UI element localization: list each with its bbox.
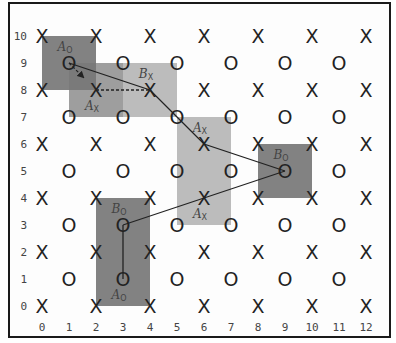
x-marker: X (89, 25, 102, 47)
y-tick-label: 2 (20, 246, 27, 259)
x-marker: X (197, 79, 210, 101)
x-marker: X (251, 295, 264, 317)
x-marker: X (35, 25, 48, 47)
x-marker: X (251, 241, 264, 263)
o-marker: O (116, 52, 131, 74)
x-tick-label: 5 (174, 321, 181, 334)
o-marker: O (278, 214, 293, 236)
o-marker: O (332, 106, 347, 128)
region-label-subscript: O (120, 208, 126, 217)
region-label-subscript: X (202, 213, 208, 222)
x-marker: X (89, 133, 102, 155)
x-marker: X (143, 187, 156, 209)
y-axis-ticks: 012345678910 (14, 30, 28, 313)
x-tick-label: 10 (305, 321, 318, 334)
x-tick-label: 9 (282, 321, 289, 334)
x-marker: X (89, 295, 102, 317)
x-tick-label: 4 (147, 321, 154, 334)
x-marker: X (251, 187, 264, 209)
o-marker: O (170, 214, 185, 236)
x-tick-label: 3 (120, 321, 127, 334)
x-marker: X (359, 79, 372, 101)
x-marker: X (305, 187, 318, 209)
x-marker: X (359, 241, 372, 263)
o-marker: O (224, 214, 239, 236)
o-marker: O (278, 268, 293, 290)
x-tick-label: 1 (66, 321, 73, 334)
o-marker: O (170, 52, 185, 74)
y-tick-label: 0 (20, 300, 27, 313)
x-marker: X (359, 295, 372, 317)
o-marker: O (116, 106, 131, 128)
x-marker: X (197, 241, 210, 263)
x-marker: X (251, 79, 264, 101)
region-label-subscript: O (120, 294, 126, 303)
x-marker: X (359, 187, 372, 209)
x-marker: X (305, 79, 318, 101)
region-label-subscript: X (94, 105, 100, 114)
o-marker: O (332, 214, 347, 236)
lattice-diagram: XXXXXXXOOOOOOXXXXXXXOOOOOOXXXXXXXOOOOOOX… (0, 0, 396, 343)
x-marker: X (143, 133, 156, 155)
x-marker: X (89, 187, 102, 209)
x-tick-label: 0 (39, 321, 46, 334)
o-marker: O (170, 160, 185, 182)
x-marker: X (35, 133, 48, 155)
x-marker: X (143, 241, 156, 263)
y-tick-label: 4 (20, 192, 27, 205)
x-tick-label: 8 (255, 321, 262, 334)
x-tick-label: 2 (93, 321, 100, 334)
o-marker: O (224, 52, 239, 74)
o-marker: O (116, 160, 131, 182)
o-marker: O (224, 106, 239, 128)
region-label-subscript: X (202, 127, 208, 136)
x-marker: X (197, 25, 210, 47)
x-marker: X (35, 241, 48, 263)
o-marker: O (224, 160, 239, 182)
x-marker: X (251, 25, 264, 47)
o-marker: O (62, 268, 77, 290)
x-marker: X (35, 187, 48, 209)
x-marker: X (197, 295, 210, 317)
o-marker: O (332, 160, 347, 182)
x-marker: X (305, 241, 318, 263)
y-tick-label: 9 (20, 57, 27, 70)
y-tick-label: 6 (20, 138, 27, 151)
x-tick-label: 7 (228, 321, 235, 334)
x-axis-ticks: 0123456789101112 (39, 321, 373, 334)
x-marker: X (35, 79, 48, 101)
x-tick-label: 12 (359, 321, 372, 334)
y-tick-label: 3 (20, 219, 27, 232)
y-tick-label: 10 (14, 30, 27, 43)
o-marker: O (62, 106, 77, 128)
x-marker: X (359, 133, 372, 155)
o-marker: O (62, 214, 77, 236)
y-tick-label: 1 (20, 273, 27, 286)
x-marker: X (143, 25, 156, 47)
o-marker: O (62, 160, 77, 182)
x-marker: X (359, 25, 372, 47)
x-marker: X (305, 295, 318, 317)
x-marker: X (305, 25, 318, 47)
o-marker: O (278, 52, 293, 74)
region-label-subscript: X (148, 73, 154, 82)
x-marker: X (305, 133, 318, 155)
y-tick-label: 8 (20, 84, 27, 97)
x-marker: X (143, 295, 156, 317)
o-marker: O (278, 106, 293, 128)
x-marker: X (89, 241, 102, 263)
region-label-subscript: O (282, 154, 288, 163)
y-tick-label: 5 (20, 165, 27, 178)
o-marker: O (224, 268, 239, 290)
y-tick-label: 7 (20, 111, 27, 124)
x-tick-label: 11 (332, 321, 345, 334)
x-tick-label: 6 (201, 321, 208, 334)
o-marker: O (170, 268, 185, 290)
region-label-subscript: O (66, 46, 72, 55)
o-marker: O (332, 52, 347, 74)
x-marker: X (35, 295, 48, 317)
x-marker: X (251, 133, 264, 155)
o-marker: O (332, 268, 347, 290)
